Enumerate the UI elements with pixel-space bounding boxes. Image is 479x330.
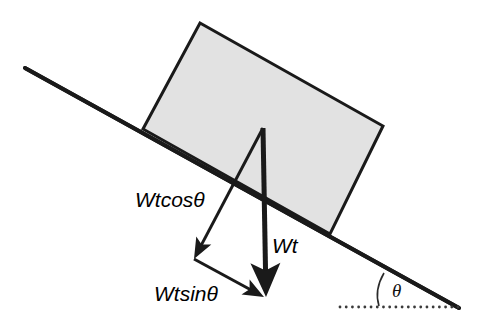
reference-dot (401, 306, 404, 309)
inclined-plane-diagram: Wt Wtcosθ Wtsinθ θ (0, 0, 479, 330)
reference-dot (413, 306, 416, 309)
weight-vector-shaft (263, 128, 266, 275)
physics-diagram-canvas: Wt Wtcosθ Wtsinθ θ (0, 0, 479, 330)
reference-dot (438, 306, 441, 309)
reference-dot (339, 306, 342, 309)
reference-dot (444, 306, 447, 309)
angle-label-theta: θ (392, 280, 401, 301)
vector-label-wt: Wt (272, 234, 299, 257)
vector-label-wtsin-theta: Wtsinθ (154, 282, 219, 305)
reference-dot (376, 306, 379, 309)
reference-dot (382, 306, 385, 309)
reference-dot (388, 306, 391, 309)
reference-dot (450, 306, 453, 309)
incline-angle-arc (377, 273, 384, 306)
reference-dot (432, 306, 435, 309)
reference-dot (351, 306, 354, 309)
reference-dot (357, 306, 360, 309)
reference-dot (370, 306, 373, 309)
reference-dot (394, 306, 397, 309)
vector-label-wtcos-theta: Wtcosθ (135, 188, 205, 211)
reference-dot (345, 306, 348, 309)
horizontal-reference-dotted-line (339, 306, 460, 309)
reference-dot (426, 306, 429, 309)
reference-dot (363, 306, 366, 309)
reference-dot (407, 306, 410, 309)
reference-dot (457, 306, 460, 309)
reference-dot (419, 306, 422, 309)
